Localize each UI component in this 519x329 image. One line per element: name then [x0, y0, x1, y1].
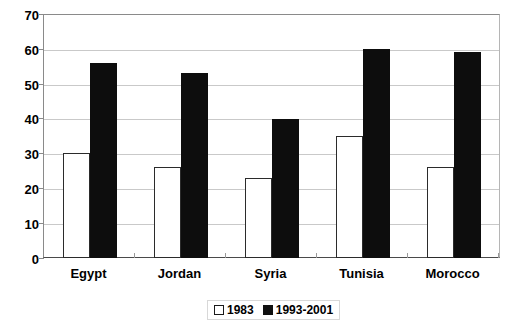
x-axis-separator	[316, 253, 317, 258]
x-axis-label-syria: Syria	[225, 264, 316, 284]
bar-egypt-1983	[63, 153, 90, 258]
bar-jordan-1983	[154, 167, 181, 258]
legend-entry-1993-2001: 1993-2001	[263, 304, 333, 316]
x-axis-labels: Egypt Jordan Syria Tunisia Morocco	[43, 264, 500, 288]
bar-tunisia-1993-2001	[363, 49, 390, 258]
bar-morocco-1983	[427, 167, 454, 258]
y-axis-tick-label-10: 10	[3, 218, 39, 231]
bar-syria-1993-2001	[272, 119, 299, 258]
y-axis-tick-label-30: 30	[3, 148, 39, 161]
y-axis-tick-label-0: 0	[3, 253, 39, 266]
x-axis-label-egypt: Egypt	[43, 264, 134, 284]
bar-syria-1983	[245, 178, 272, 258]
chart-legend: 1983 1993-2001	[207, 300, 340, 320]
y-axis-tick-label-40: 40	[3, 113, 39, 126]
y-axis-tick-label-70: 70	[3, 9, 39, 22]
y-axis-tick-label-50: 50	[3, 79, 39, 92]
y-axis-tick-label-60: 60	[3, 44, 39, 57]
bar-tunisia-1983	[336, 136, 363, 258]
x-axis-label-tunisia: Tunisia	[316, 264, 407, 284]
bar-jordan-1993-2001	[181, 73, 208, 258]
bars-layer	[43, 14, 500, 258]
x-axis-separator	[498, 253, 499, 258]
x-axis-label-jordan: Jordan	[134, 264, 225, 284]
bar-chart: 70 60 50 40 30 20 10 0	[0, 0, 519, 329]
legend-swatch-white-icon	[214, 305, 224, 315]
x-axis-separator	[407, 253, 408, 258]
bar-morocco-1993-2001	[454, 52, 481, 258]
x-axis-separator	[225, 253, 226, 258]
legend-swatch-black-icon	[263, 305, 273, 315]
legend-entry-1983: 1983	[214, 304, 254, 316]
legend-label-1993-2001: 1993-2001	[276, 304, 333, 316]
bar-egypt-1993-2001	[90, 63, 117, 258]
legend-label-1983: 1983	[227, 304, 254, 316]
x-axis-separator	[134, 253, 135, 258]
y-axis-labels: 70 60 50 40 30 20 10 0	[0, 0, 39, 329]
y-axis-tick-label-20: 20	[3, 183, 39, 196]
x-axis-label-morocco: Morocco	[407, 264, 498, 284]
